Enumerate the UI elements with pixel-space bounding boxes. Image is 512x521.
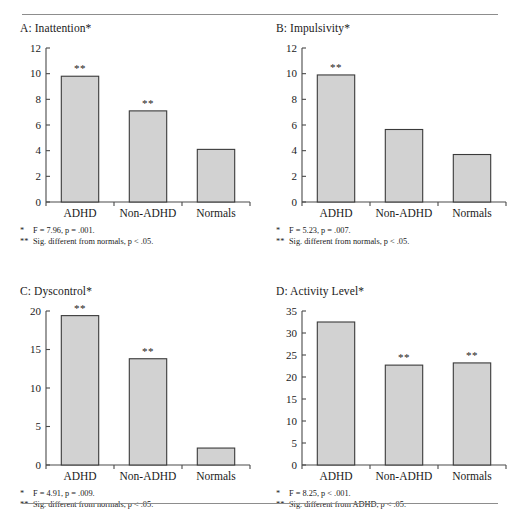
panel-d-notes: *F = 8.25, p < .001.**Sig. different fro… — [276, 488, 512, 510]
panel-a-title: A: Inattention* — [20, 22, 256, 36]
top-divider-rule — [22, 14, 498, 15]
chart-c: 05101520**ADHD**Non-ADHDNormals — [20, 299, 256, 487]
panel-b-title: B: Impulsivity* — [276, 22, 512, 36]
y-tick-label-20: 20 — [30, 305, 42, 317]
footnote-text: F = 4.91, p = .009. — [33, 488, 95, 499]
y-tick-label-5: 5 — [36, 420, 42, 432]
y-tick-label-30: 30 — [286, 327, 298, 339]
x-category-label-0: ADHD — [319, 207, 352, 219]
y-tick-label-8: 8 — [36, 93, 42, 105]
y-tick-label-25: 25 — [286, 349, 298, 361]
y-tick-label-6: 6 — [36, 119, 42, 131]
y-tick-label-20: 20 — [286, 371, 298, 383]
y-tick-label-10: 10 — [286, 415, 298, 427]
footnote-marker: * — [20, 488, 33, 499]
bar-d-adhd — [317, 322, 354, 465]
y-tick-label-0: 0 — [36, 459, 42, 471]
x-category-label-0: ADHD — [63, 470, 96, 482]
bar-a-normals — [197, 149, 234, 202]
panel-d-title: D: Activity Level* — [276, 285, 512, 299]
panel-a-notes: *F = 7.96, p = .001.**Sig. different fro… — [20, 225, 256, 247]
y-tick-label-0: 0 — [36, 196, 42, 208]
footnote-text: Sig. different from normals, p < .05. — [33, 236, 153, 247]
chart-a: 024681012**ADHD**Non-ADHDNormals — [20, 36, 256, 224]
bar-b-non-adhd — [385, 129, 422, 202]
panel-d-plot: 05101520253035ADHD**Non-ADHD**Normals — [276, 299, 512, 487]
x-category-label-0: ADHD — [63, 207, 96, 219]
footnote-row-1: **Sig. different from normals, p < .05. — [20, 236, 256, 247]
x-category-label-1: Non-ADHD — [120, 470, 177, 482]
panel-c: C: Dyscontrol* 05101520**ADHD**Non-ADHDN… — [20, 285, 256, 517]
y-tick-label-12: 12 — [30, 42, 41, 54]
footnote-row-0: *F = 5.23, p = .007. — [276, 225, 512, 236]
footnote-marker: * — [20, 225, 33, 236]
chart-b: 024681012**ADHDNon-ADHDNormals — [276, 36, 512, 224]
footnote-row-0: *F = 7.96, p = .001. — [20, 225, 256, 236]
panel-b-plot: 024681012**ADHDNon-ADHDNormals — [276, 36, 512, 224]
x-category-label-1: Non-ADHD — [376, 470, 433, 482]
x-category-label-1: Non-ADHD — [376, 207, 433, 219]
footnote-marker: * — [276, 488, 289, 499]
significance-marker-0: ** — [74, 302, 86, 314]
footnote-marker: ** — [276, 236, 289, 247]
panel-c-plot: 05101520**ADHD**Non-ADHDNormals — [20, 299, 256, 487]
y-tick-label-6: 6 — [292, 119, 298, 131]
figure-root: A: Inattention* 024681012**ADHD**Non-ADH… — [0, 0, 512, 521]
panel-c-title: C: Dyscontrol* — [20, 285, 256, 299]
panel-c-notes: *F = 4.91, p = .009.**Sig. different fro… — [20, 488, 256, 510]
y-tick-label-10: 10 — [30, 382, 42, 394]
bar-c-adhd — [61, 316, 98, 465]
footnote-row-1: **Sig. different from normals, p < .05. — [20, 499, 256, 510]
x-category-label-2: Normals — [196, 207, 236, 219]
y-tick-label-10: 10 — [286, 67, 298, 79]
footnote-row-0: *F = 8.25, p < .001. — [276, 488, 512, 499]
panel-a-plot: 024681012**ADHD**Non-ADHDNormals — [20, 36, 256, 224]
y-tick-label-35: 35 — [286, 305, 298, 317]
significance-marker-2: ** — [466, 349, 478, 361]
significance-marker-0: ** — [74, 62, 86, 74]
bar-a-adhd — [61, 76, 98, 202]
footnote-text: F = 5.23, p = .007. — [289, 225, 351, 236]
footnote-row-0: *F = 4.91, p = .009. — [20, 488, 256, 499]
chart-d: 05101520253035ADHD**Non-ADHD**Normals — [276, 299, 512, 487]
footnote-row-1: **Sig. different from normals, p < .05. — [276, 236, 512, 247]
bar-c-normals — [197, 448, 234, 465]
panel-b-notes: *F = 5.23, p = .007.**Sig. different fro… — [276, 225, 512, 247]
y-tick-label-4: 4 — [292, 144, 298, 156]
footnote-row-1: **Sig. different from ADHD, p < .05. — [276, 499, 512, 510]
bottom-divider-rule — [22, 503, 498, 504]
significance-marker-1: ** — [142, 345, 154, 357]
footnote-text: Sig. different from ADHD, p < .05. — [289, 499, 406, 510]
x-category-label-0: ADHD — [319, 470, 352, 482]
bar-d-non-adhd — [385, 365, 422, 465]
footnote-text: F = 7.96, p = .001. — [33, 225, 95, 236]
y-tick-label-10: 10 — [30, 67, 42, 79]
y-tick-label-2: 2 — [292, 170, 298, 182]
bar-b-adhd — [317, 75, 354, 202]
panel-a: A: Inattention* 024681012**ADHD**Non-ADH… — [20, 22, 256, 254]
y-tick-label-0: 0 — [292, 459, 298, 471]
y-tick-label-8: 8 — [292, 93, 298, 105]
y-tick-label-2: 2 — [36, 170, 42, 182]
x-category-label-2: Normals — [196, 470, 236, 482]
y-tick-label-15: 15 — [30, 343, 42, 355]
y-tick-label-5: 5 — [292, 437, 298, 449]
footnote-marker: ** — [20, 499, 33, 510]
footnote-text: Sig. different from normals, p < .05. — [33, 499, 153, 510]
bar-b-normals — [453, 155, 490, 202]
x-category-label-2: Normals — [452, 470, 492, 482]
footnote-text: F = 8.25, p < .001. — [289, 488, 351, 499]
x-category-label-2: Normals — [452, 207, 492, 219]
significance-marker-0: ** — [330, 61, 342, 73]
footnote-marker: ** — [276, 499, 289, 510]
significance-marker-1: ** — [142, 97, 154, 109]
x-category-label-1: Non-ADHD — [120, 207, 177, 219]
panel-d: D: Activity Level* 05101520253035ADHD**N… — [276, 285, 512, 517]
y-tick-label-0: 0 — [292, 196, 298, 208]
y-tick-label-4: 4 — [36, 144, 42, 156]
bar-c-non-adhd — [129, 359, 166, 465]
footnote-marker: * — [276, 225, 289, 236]
significance-marker-1: ** — [398, 351, 410, 363]
footnote-text: Sig. different from normals, p < .05. — [289, 236, 409, 247]
panel-b: B: Impulsivity* 024681012**ADHDNon-ADHDN… — [276, 22, 512, 254]
